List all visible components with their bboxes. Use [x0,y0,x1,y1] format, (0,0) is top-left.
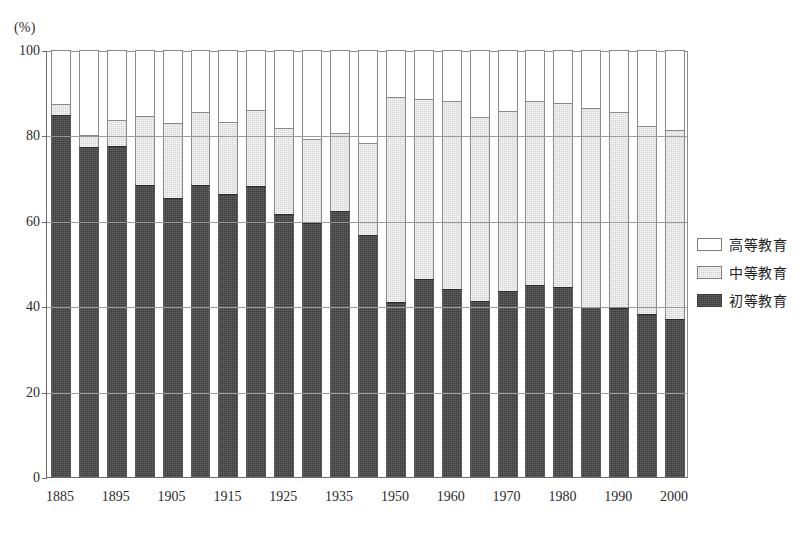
bar-segment-primary [302,223,322,477]
y-axis-tick-mark [42,51,47,52]
bar-segment-secondary [665,130,685,320]
x-axis-tick-label: 2000 [660,489,688,505]
stacked-bar-chart: (%) 020406080100 18851895190519151925193… [0,0,810,539]
bar-stack [274,50,294,477]
bar-segment-secondary [470,117,490,301]
bar-segment-secondary [609,112,629,309]
bar-segment-primary [665,319,685,477]
bar-segment-primary [414,279,434,477]
bar-segment-higher [498,50,518,111]
y-axis-tick-label: 60 [26,214,40,230]
y-axis-tick-label: 20 [26,385,40,401]
bar-segment-higher [274,50,294,128]
bar-stack [498,50,518,477]
bar-stack [386,50,406,477]
x-axis-tick-label: 1980 [548,489,576,505]
bar-segment-higher [135,50,155,116]
bar-stack [358,50,378,477]
bar-segment-higher [470,50,490,117]
bar-stack [553,50,573,477]
bar-segment-higher [525,50,545,101]
bar-segment-secondary [274,128,294,214]
bar-segment-higher [163,50,183,123]
x-axis-tick-label: 1895 [102,489,130,505]
bar-segment-secondary [302,139,322,222]
bar-segment-higher [218,50,238,122]
bar-stack [330,50,350,477]
bar-stack [609,50,629,477]
y-axis-tick-mark [42,222,47,223]
bar-stack [218,50,238,477]
bar-stack [135,50,155,477]
x-axis-tick-label: 1885 [46,489,74,505]
bar-stack [637,50,657,477]
bar-segment-primary [386,302,406,477]
bar-segment-secondary [330,133,350,211]
bar-segment-secondary [498,111,518,291]
bar-segment-primary [246,186,266,477]
bar-segment-secondary [218,122,238,194]
x-axis-tick-label: 1905 [158,489,186,505]
bar-segment-higher [386,50,406,97]
y-axis-tick-label: 40 [26,299,40,315]
bar-segment-primary [79,147,99,477]
legend-label-secondary: 中等教育 [729,262,787,282]
x-axis-tick-label: 1960 [437,489,465,505]
legend-item-higher: 高等教育 [697,234,787,254]
bar-segment-secondary [51,104,71,115]
y-axis-unit-label: (%) [14,20,36,36]
bar-segment-primary [135,185,155,477]
bar-segment-primary [637,314,657,477]
bar-segment-primary [553,287,573,477]
legend-swatch-secondary-icon [697,266,722,279]
bar-segment-secondary [246,110,266,186]
y-axis-tick-label: 100 [19,43,40,59]
bar-segment-higher [637,50,657,126]
gridline [47,136,688,137]
bar-segment-secondary [386,97,406,302]
x-axis-tick-label: 1990 [604,489,632,505]
y-axis-tick-mark [42,393,47,394]
chart-legend: 高等教育 中等教育 初等教育 [697,234,787,310]
bar-segment-higher [302,50,322,139]
bar-segment-secondary [414,99,434,279]
legend-label-higher: 高等教育 [729,234,787,254]
bar-stack [246,50,266,477]
bar-segment-primary [358,235,378,477]
bar-segment-secondary [525,101,545,285]
bar-segment-primary [470,301,490,477]
bar-segment-secondary [553,103,573,287]
x-axis-tick-label: 1915 [213,489,241,505]
legend-item-primary: 初等教育 [697,290,787,310]
gridline [47,393,688,394]
bar-stack [525,50,545,477]
bar-segment-higher [442,50,462,101]
bar-stack [51,50,71,477]
y-axis-tick-mark [42,478,47,479]
bar-segment-primary [51,115,71,477]
bar-stack [665,50,685,477]
bar-segment-higher [553,50,573,103]
x-axis-tick-label: 1950 [381,489,409,505]
y-axis-tick-label: 0 [33,470,40,486]
bar-segment-primary [274,214,294,477]
bar-stack [581,50,601,477]
bar-segment-higher [414,50,434,99]
bar-stack [163,50,183,477]
bar-segment-secondary [581,108,601,307]
bar-segment-primary [163,198,183,477]
legend-swatch-primary-icon [697,294,722,307]
bar-segment-higher [665,50,685,130]
bar-stack [470,50,490,477]
bar-segment-higher [51,50,71,104]
bar-segment-higher [79,50,99,135]
bar-segment-secondary [107,120,127,146]
y-axis-tick-label: 80 [26,128,40,144]
bar-segment-secondary [191,112,211,185]
bar-segment-higher [330,50,350,133]
bar-stack [191,50,211,477]
bar-segment-primary [218,194,238,477]
x-axis-tick-label: 1970 [493,489,521,505]
y-axis-tick-mark [42,136,47,137]
bar-segment-primary [442,289,462,477]
